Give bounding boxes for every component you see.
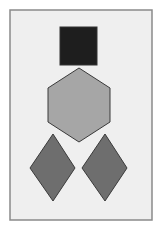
black-square	[60, 27, 97, 65]
diagram-canvas	[0, 0, 160, 231]
diagram-svg	[0, 0, 160, 231]
